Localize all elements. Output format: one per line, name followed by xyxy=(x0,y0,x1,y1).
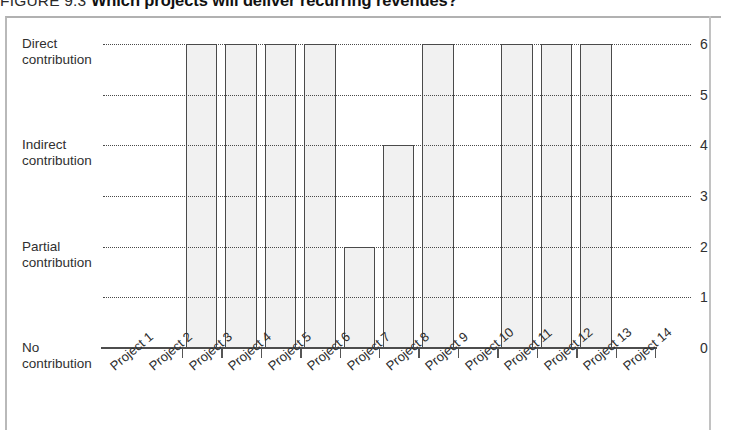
y-tick-label-right-3: 3 xyxy=(700,189,722,203)
y-category-label: Directcontribution xyxy=(22,36,108,68)
y-category-label-line1: Direct xyxy=(22,36,108,52)
figure-frame-right-rule xyxy=(709,16,711,430)
gridline-1 xyxy=(103,297,691,298)
y-category-label-line2: contribution xyxy=(22,356,108,372)
y-tick-label-right-4: 4 xyxy=(700,138,722,152)
figure-number: FIGURE 9.3 xyxy=(0,0,86,9)
gridline-5 xyxy=(103,95,691,96)
y-category-label: Partialcontribution xyxy=(22,239,108,271)
y-category-label-line2: contribution xyxy=(22,52,108,68)
y-tick-label-right-1: 1 xyxy=(700,290,722,304)
y-category-label: Nocontribution xyxy=(22,340,108,372)
figure-title: FIGURE 9.3 Which projects will deliver r… xyxy=(0,0,735,13)
y-category-label-line1: No xyxy=(22,340,108,356)
gridline-2 xyxy=(103,247,691,248)
gridline-4 xyxy=(103,145,691,146)
figure-title-text: Which projects will deliver recurring re… xyxy=(91,0,458,9)
y-category-label-line2: contribution xyxy=(22,255,108,271)
y-tick-label-right-6: 6 xyxy=(700,37,722,51)
figure-root: FIGURE 9.3 Which projects will deliver r… xyxy=(0,0,735,436)
y-category-label-line1: Partial xyxy=(22,239,108,255)
y-tick-label-right-5: 5 xyxy=(700,88,722,102)
y-category-label-line2: contribution xyxy=(22,153,108,169)
y-tick-label-right-0: 0 xyxy=(700,341,722,355)
y-tick-label-right-2: 2 xyxy=(700,240,722,254)
gridline-3 xyxy=(103,196,691,197)
y-category-label-line1: Indirect xyxy=(22,137,108,153)
gridline-6 xyxy=(103,44,691,45)
y-category-label: Indirectcontribution xyxy=(22,137,108,169)
